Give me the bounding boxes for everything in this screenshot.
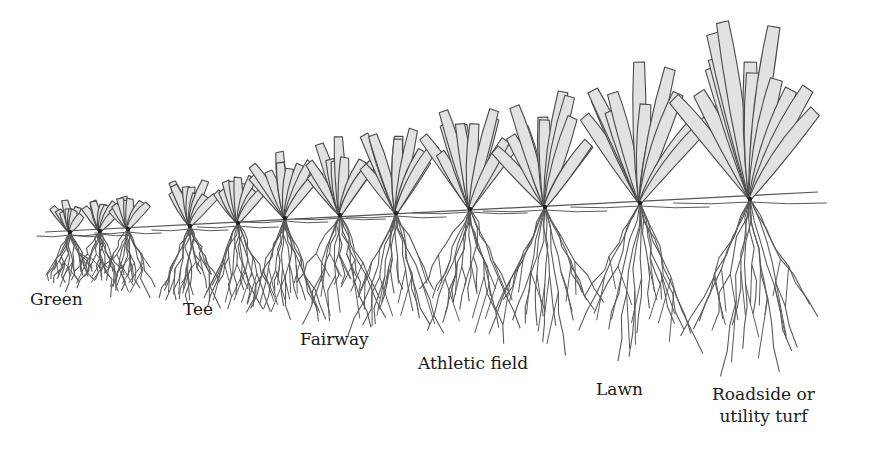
root bbox=[496, 207, 545, 310]
root-branch bbox=[597, 276, 605, 321]
plant-crown bbox=[236, 221, 240, 225]
root-branch bbox=[537, 275, 543, 317]
plant-crown bbox=[468, 207, 472, 211]
root-branch bbox=[669, 289, 674, 342]
root-branch bbox=[472, 277, 484, 319]
root-branch bbox=[526, 274, 530, 315]
root bbox=[396, 213, 413, 311]
root-branch bbox=[627, 293, 630, 348]
plant-crown bbox=[188, 224, 192, 228]
root bbox=[358, 213, 396, 298]
root-branch bbox=[453, 267, 462, 302]
root-branch bbox=[746, 285, 759, 337]
root-branch bbox=[785, 266, 788, 307]
root bbox=[545, 207, 604, 302]
root bbox=[579, 203, 640, 330]
root-branch bbox=[751, 264, 752, 304]
root bbox=[396, 213, 444, 333]
root-branch bbox=[575, 262, 576, 295]
root-branch bbox=[635, 291, 636, 345]
root bbox=[321, 215, 340, 282]
stolon bbox=[190, 229, 228, 231]
root bbox=[470, 209, 504, 344]
root-branch bbox=[632, 277, 642, 323]
root-branch bbox=[510, 266, 519, 302]
label-fairway: Fairway bbox=[300, 328, 369, 350]
plant-crown bbox=[338, 213, 342, 217]
stolon bbox=[640, 206, 710, 208]
root bbox=[513, 207, 545, 320]
stolon bbox=[285, 221, 328, 223]
label-athletic-field: Athletic field bbox=[418, 352, 528, 374]
root-branch bbox=[722, 269, 727, 312]
stolon bbox=[197, 226, 238, 228]
stolon bbox=[673, 202, 750, 204]
stolon bbox=[238, 226, 279, 228]
label-lawn: Lawn bbox=[596, 378, 643, 400]
stolon bbox=[396, 216, 446, 218]
root-branch bbox=[398, 257, 399, 284]
plant-crown bbox=[98, 229, 102, 233]
label-tee: Tee bbox=[183, 298, 213, 320]
root-branch bbox=[294, 258, 301, 283]
root bbox=[750, 199, 797, 348]
stolon bbox=[750, 202, 827, 204]
soil-line bbox=[45, 192, 818, 232]
plant-crown bbox=[68, 230, 72, 234]
stolon bbox=[36, 235, 70, 237]
stolon bbox=[69, 234, 100, 236]
roots-layer bbox=[36, 199, 826, 376]
plant-crown bbox=[394, 211, 398, 215]
root-branch bbox=[398, 269, 406, 303]
grass-blades-layer bbox=[50, 21, 820, 234]
stolon bbox=[545, 210, 607, 212]
stolon bbox=[483, 210, 545, 212]
root-branch bbox=[612, 275, 622, 319]
plant-crown bbox=[126, 227, 130, 231]
plant-crown bbox=[283, 216, 287, 220]
root-branch bbox=[758, 298, 767, 359]
root-branch bbox=[419, 257, 428, 284]
stolon bbox=[128, 232, 162, 234]
root-branch bbox=[296, 265, 297, 294]
plant-crown bbox=[543, 205, 547, 209]
label-roadside-utility-turf: Roadside or utility turf bbox=[712, 383, 815, 427]
stolon bbox=[470, 212, 528, 214]
root-branch bbox=[609, 256, 616, 289]
plant-crown bbox=[748, 197, 752, 201]
root-branch bbox=[776, 284, 786, 336]
root-branch bbox=[340, 255, 352, 279]
label-green: Green bbox=[30, 288, 83, 310]
stolon bbox=[152, 229, 190, 231]
root-branch bbox=[561, 272, 572, 312]
stolon bbox=[570, 206, 640, 208]
plant-crown bbox=[638, 201, 642, 205]
